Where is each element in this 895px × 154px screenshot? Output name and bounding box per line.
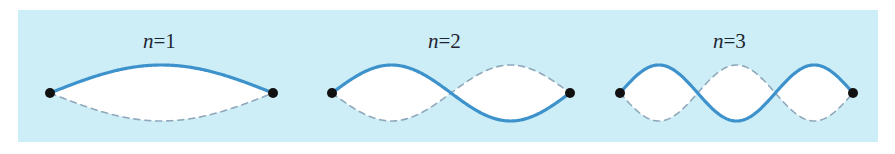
mode-label-n1-equals: = [154, 29, 166, 53]
mode-label-n2: n=2 [428, 29, 461, 54]
endpoint-dot-left [327, 88, 337, 98]
mode-label-n2-value: 2 [450, 29, 461, 53]
mode-label-n3-variable: n [713, 29, 724, 53]
endpoint-dot-left [615, 88, 625, 98]
wave-lobe [698, 65, 776, 121]
endpoint-dot-right [268, 88, 278, 98]
mode-label-n1-value: 1 [165, 29, 176, 53]
mode-label-n3-equals: = [724, 29, 736, 53]
mode-label-n3: n=3 [713, 29, 746, 54]
wave-lobe [775, 65, 853, 121]
endpoint-dot-left [45, 88, 55, 98]
mode-label-n1: n=1 [143, 29, 176, 54]
wave-lobe [620, 65, 698, 121]
mode-label-n3-value: 3 [735, 29, 746, 53]
mode-label-n2-equals: = [439, 29, 451, 53]
endpoint-dot-right [565, 88, 575, 98]
wave-lobe [50, 65, 273, 121]
standing-wave-figure: n=1 n=2 n=3 [0, 0, 895, 154]
endpoint-dot-right [848, 88, 858, 98]
wave-diagram-svg [0, 0, 895, 154]
mode-label-n2-variable: n [428, 29, 439, 53]
wave-lobe [451, 65, 570, 121]
mode-label-n1-variable: n [143, 29, 154, 53]
wave-lobe [332, 65, 451, 121]
